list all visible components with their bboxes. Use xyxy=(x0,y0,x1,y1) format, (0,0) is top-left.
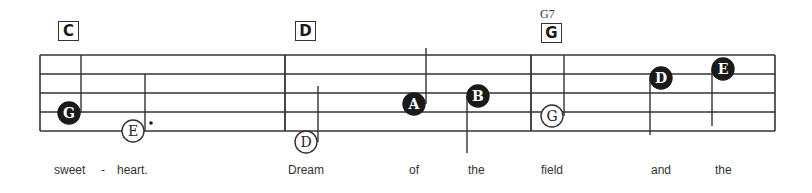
note-letter: G xyxy=(546,108,557,124)
lyric-syllable: of xyxy=(409,163,419,177)
lyric-syllable: the xyxy=(715,163,732,177)
lyric-syllable: and xyxy=(651,163,671,177)
lyric-syllable: the xyxy=(468,163,485,177)
chord-box-g: G xyxy=(541,23,562,43)
note-letter: E xyxy=(128,123,138,139)
lyric-syllable: heart. xyxy=(117,163,148,177)
alternate-chord-label: G7 xyxy=(540,7,555,22)
lyric-syllable: - xyxy=(101,163,105,177)
note-letter: A xyxy=(408,96,421,112)
lyric-syllable: field xyxy=(541,163,563,177)
note-letter: G xyxy=(63,105,75,121)
note-letter: B xyxy=(472,88,484,104)
chord-box-d: D xyxy=(295,21,316,41)
note-letter: D xyxy=(655,70,667,86)
lyric-syllable: Dream xyxy=(288,163,324,177)
chord-box-c: C xyxy=(58,21,79,41)
lyric-syllable: sweet xyxy=(54,163,85,177)
note-letter: E xyxy=(718,61,729,77)
augmentation-dot xyxy=(149,121,153,125)
note-letter: D xyxy=(300,134,311,150)
